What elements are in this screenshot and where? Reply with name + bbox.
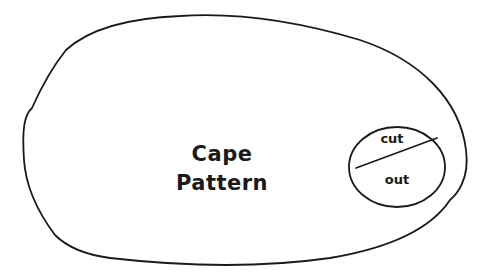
- cape-pattern-diagram: Cape Pattern cut out: [0, 0, 488, 278]
- cut-out-marker: cut out: [349, 127, 445, 207]
- title-line-pattern: Pattern: [176, 171, 268, 195]
- marker-label-out: out: [385, 172, 409, 187]
- title-line-cape: Cape: [192, 142, 253, 166]
- marker-label-cut: cut: [380, 131, 403, 146]
